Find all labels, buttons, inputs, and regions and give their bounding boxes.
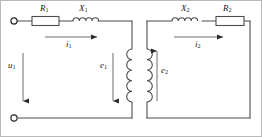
label-r2: R2 <box>223 4 232 13</box>
label-r2-sub: 2 <box>229 6 232 13</box>
label-r1-sub: 1 <box>46 6 49 13</box>
terminal-top-left <box>11 18 17 24</box>
secondary-winding-coil <box>147 49 152 102</box>
terminal-bottom-left <box>11 115 17 121</box>
label-x1-sub: 1 <box>85 6 88 13</box>
label-x2: X2 <box>181 4 190 13</box>
label-i2-sub: 2 <box>198 42 201 49</box>
label-x2-sub: 2 <box>187 6 190 13</box>
label-i1-sub: 1 <box>69 42 72 49</box>
label-r1: R1 <box>40 4 49 13</box>
label-i2: i2 <box>195 40 201 49</box>
label-i1: i1 <box>66 40 72 49</box>
resistor-r2 <box>216 17 244 26</box>
primary-winding-coil <box>127 49 132 102</box>
inductor-x1 <box>73 18 99 21</box>
resistor-r1 <box>32 17 59 26</box>
label-x1: X1 <box>79 4 88 13</box>
label-e2: e2 <box>161 66 168 75</box>
circuit-schematic <box>1 1 262 137</box>
label-e1: e1 <box>100 61 107 70</box>
label-u1: u1 <box>8 61 16 70</box>
label-e1-sub: 1 <box>104 63 107 70</box>
label-u1-sub: 1 <box>13 63 16 70</box>
label-e2-sub: 2 <box>165 68 168 75</box>
inductor-x2 <box>172 18 198 21</box>
circuit-diagram-frame: R1 X1 X2 R2 i1 i2 u1 e1 e2 <box>0 0 262 137</box>
